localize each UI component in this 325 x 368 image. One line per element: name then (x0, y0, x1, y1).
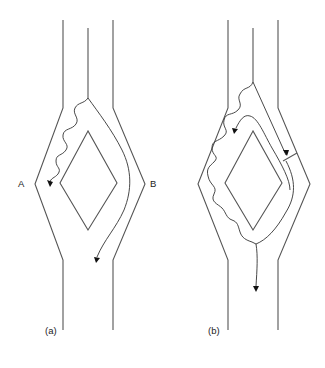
panel-a-arrow-down (94, 257, 100, 263)
panel-b-arrow-down (253, 286, 259, 292)
diagram-canvas: A B (a) (b) (0, 0, 325, 368)
panel-a-smooth-path (88, 98, 130, 257)
panel-b-wavy-path (207, 82, 256, 244)
panel-a-island (60, 131, 117, 230)
panel-a-caption: (a) (45, 325, 57, 336)
panel-b-caption: (b) (208, 325, 220, 336)
panel-a: A B (a) (18, 20, 156, 336)
panel-b: (b) (198, 20, 310, 336)
panel-b-right-wall (278, 20, 310, 330)
panel-b-outflow-path (256, 244, 257, 286)
panel-a-left-wall (35, 20, 63, 330)
label-A: A (18, 178, 25, 189)
panel-b-island (225, 131, 282, 230)
panel-b-arrow-right (283, 150, 289, 156)
panel-b-left-wall (198, 20, 228, 330)
label-B: B (150, 178, 156, 189)
panel-b-crossbar (283, 153, 297, 161)
panel-a-arrow-left (47, 180, 53, 187)
panel-b-arrow-left (232, 128, 238, 134)
panel-b-right-outer-path (256, 161, 294, 244)
panel-b-loop-path (236, 116, 290, 190)
